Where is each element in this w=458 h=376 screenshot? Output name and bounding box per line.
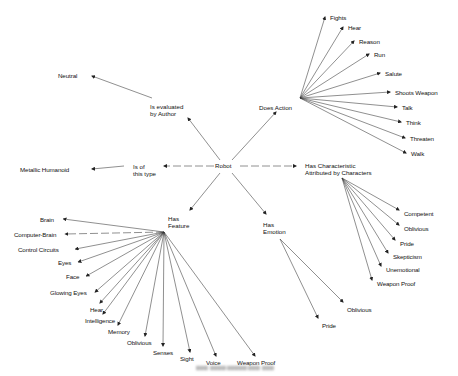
relation-of-type-label: this type <box>133 170 156 177</box>
target-feature-11: Sight <box>180 355 194 362</box>
target-does-action-4: Salute <box>385 70 402 77</box>
target-does-action-5: Shoots Weapon <box>395 89 438 96</box>
target-emotion-1: Pride <box>322 322 336 329</box>
target-feature-5: Glowing Eyes <box>50 289 87 296</box>
concept-map-edges <box>0 0 458 376</box>
target-does-action-2: Reason <box>359 38 380 45</box>
target-characteristic-5: Weapon Proof <box>377 280 415 287</box>
target-feature-2: Control Circuits <box>18 246 59 253</box>
target-feature-10: Senses <box>153 349 173 356</box>
target-does-action-8: Threaten <box>410 135 434 142</box>
relation-emotion-label: Emotion <box>263 228 286 235</box>
target-of-type-0: Metallic Humanoid <box>20 166 69 173</box>
relation-characteristic-label: Has Characteristic <box>305 162 356 169</box>
target-emotion-0: Oblivious <box>347 306 372 313</box>
target-feature-6: Hear <box>90 306 103 313</box>
target-feature-3: Eyes <box>58 259 71 266</box>
relation-does-action-label: Does Action <box>259 104 292 111</box>
target-characteristic-3: Skepticism <box>393 253 422 260</box>
target-feature-9: Oblivious <box>127 339 152 346</box>
target-does-action-7: Think <box>406 119 421 126</box>
target-does-action-6: Talk <box>402 104 413 111</box>
relation-emotion-label: Has <box>263 221 274 228</box>
target-does-action-1: Hear <box>348 24 361 31</box>
relation-feature-label: Has <box>168 215 179 222</box>
target-characteristic-0: Competent <box>404 210 433 217</box>
target-does-action-0: Fights <box>330 14 346 21</box>
target-evaluated-0: Neutral <box>58 72 77 79</box>
target-feature-8: Memory <box>108 328 130 335</box>
target-feature-0: Brain <box>40 216 54 223</box>
target-feature-4: Face <box>66 273 79 280</box>
figure-caption: ▆▆▆ ▆▆▆▆ ▆▆▆▆▆ ▆▆▆ ▆▆▆ <box>160 364 310 370</box>
target-feature-1: Computer-Brain <box>14 231 56 238</box>
target-feature-7: Intelligence <box>85 317 115 324</box>
target-does-action-3: Run <box>374 51 385 58</box>
target-does-action-9: Walk <box>411 150 424 157</box>
relation-feature-label: Feature <box>168 222 189 229</box>
relation-evaluated-label: Is evaluated <box>150 103 183 110</box>
target-characteristic-4: Unemotional <box>386 266 420 273</box>
relation-characteristic-label: Attributed by Characters <box>305 169 372 176</box>
target-characteristic-1: Oblivious <box>404 225 429 232</box>
target-characteristic-2: Pride <box>400 240 414 247</box>
node-robot: Robot <box>215 162 232 169</box>
relation-of-type-label: Is of <box>133 163 145 170</box>
relation-evaluated-label: by Author <box>150 110 176 117</box>
